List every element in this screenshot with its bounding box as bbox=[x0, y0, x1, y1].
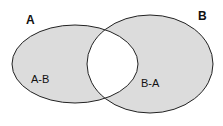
region-b-minus-a-label: B-A bbox=[141, 77, 159, 89]
region-a-minus-b-label: A-B bbox=[31, 73, 49, 85]
set-b-label: B bbox=[198, 9, 207, 23]
set-a-label: A bbox=[26, 13, 35, 27]
